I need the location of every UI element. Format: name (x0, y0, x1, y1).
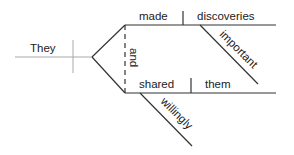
top-object-word: discoveries (197, 10, 255, 22)
bottom-object-word: them (205, 78, 231, 90)
bottom-verb-word: shared (139, 78, 174, 90)
conjunction-word: and (128, 48, 140, 67)
verb-modifier-word: willingly (158, 94, 195, 131)
fork-upper-line (92, 25, 125, 57)
sentence-diagram: They and made discoveries important shar… (0, 0, 294, 155)
subject-word: They (30, 42, 56, 54)
top-verb-word: made (139, 10, 168, 22)
fork-lower-line (92, 57, 125, 93)
